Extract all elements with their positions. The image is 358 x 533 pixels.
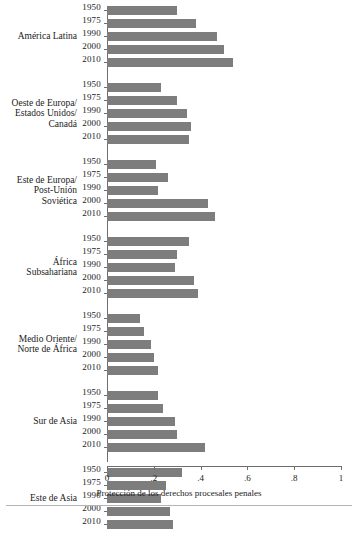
year-label: 2010 xyxy=(82,209,101,218)
value-axis-tick xyxy=(201,466,202,470)
bar-row: 1975 xyxy=(107,96,341,105)
bar-row: 1950 xyxy=(107,160,341,169)
bar-group: 19501975199020002010América Latina xyxy=(107,6,341,71)
year-label: 2010 xyxy=(82,55,101,64)
year-label: 2010 xyxy=(82,517,101,526)
bar-row: 1950 xyxy=(107,468,341,477)
bar-row: 1950 xyxy=(107,83,341,92)
bar-group: 19501975199020002010Este de Europa/ Post… xyxy=(107,160,341,225)
bar-row: 2000 xyxy=(107,430,341,439)
bar xyxy=(107,520,173,529)
bar xyxy=(107,109,187,118)
bar xyxy=(107,250,177,259)
bar xyxy=(107,58,233,67)
year-label: 1975 xyxy=(82,247,101,256)
bar xyxy=(107,366,158,375)
bar xyxy=(107,314,140,323)
year-label: 2000 xyxy=(82,273,101,282)
bar-row: 2000 xyxy=(107,122,341,131)
bar-row: 2010 xyxy=(107,212,341,221)
bar xyxy=(107,353,154,362)
year-label: 2010 xyxy=(82,132,101,141)
year-label: 1950 xyxy=(82,157,101,166)
value-axis-tick-label: 0 xyxy=(105,473,110,483)
year-label: 1990 xyxy=(82,414,101,423)
bar-row: 1990 xyxy=(107,186,341,195)
year-label: 2000 xyxy=(82,427,101,436)
year-label: 1975 xyxy=(82,170,101,179)
bar-row: 2000 xyxy=(107,45,341,54)
bar xyxy=(107,443,205,452)
bar xyxy=(107,173,168,182)
bar-group: 19501975199020002010África Subsahariana xyxy=(107,237,341,302)
year-label: 1975 xyxy=(82,16,101,25)
bar xyxy=(107,507,170,516)
bar xyxy=(107,45,224,54)
year-label: 1975 xyxy=(82,324,101,333)
year-label: 1990 xyxy=(82,106,101,115)
year-label: 1990 xyxy=(82,183,101,192)
bar xyxy=(107,83,161,92)
bar xyxy=(107,96,177,105)
bar-row: 2010 xyxy=(107,520,341,529)
bar-row: 2000 xyxy=(107,507,341,516)
year-label: 2000 xyxy=(82,350,101,359)
bar-row: 1975 xyxy=(107,250,341,259)
bar xyxy=(107,19,196,28)
value-axis-tick xyxy=(294,466,295,470)
bar xyxy=(107,199,208,208)
year-label: 1950 xyxy=(82,234,101,243)
year-label: 1950 xyxy=(82,80,101,89)
group-label: África Subsahariana xyxy=(1,257,77,278)
year-label: 1975 xyxy=(82,93,101,102)
bar-row: 1950 xyxy=(107,237,341,246)
bar xyxy=(107,276,194,285)
value-axis-tick-label: .8 xyxy=(291,473,298,483)
bar xyxy=(107,391,158,400)
year-label: 1950 xyxy=(82,388,101,397)
bar xyxy=(107,327,144,336)
bar xyxy=(107,468,182,477)
bar xyxy=(107,417,175,426)
year-label: 1950 xyxy=(82,465,101,474)
year-label: 2000 xyxy=(82,196,101,205)
bar xyxy=(107,289,198,298)
group-label: Oeste de Europa/ Estados Unidos/ Canadá xyxy=(1,98,77,130)
bar xyxy=(107,6,177,15)
value-axis-tick-label: .2 xyxy=(150,473,157,483)
bar-row: 1975 xyxy=(107,404,341,413)
year-label: 1950 xyxy=(82,3,101,12)
year-label: 1950 xyxy=(82,311,101,320)
bar-row: 1950 xyxy=(107,314,341,323)
plot-area: 19501975199020002010América Latina195019… xyxy=(107,6,341,468)
bar-group: 19501975199020002010Sur de Asia xyxy=(107,391,341,456)
x-axis-title: Protección de los derechos procesales pe… xyxy=(0,488,358,499)
year-label: 1990 xyxy=(82,260,101,269)
value-axis-tick-label: .6 xyxy=(244,473,251,483)
bar xyxy=(107,135,189,144)
bar xyxy=(107,122,191,131)
year-label: 2010 xyxy=(82,286,101,295)
bar-row: 2000 xyxy=(107,353,341,362)
bar-row: 1950 xyxy=(107,6,341,15)
bar-row: 2010 xyxy=(107,289,341,298)
year-label: 2010 xyxy=(82,440,101,449)
bar-row: 1975 xyxy=(107,327,341,336)
group-label: Medio Oriente/ Norte de África xyxy=(1,334,77,355)
bar xyxy=(107,263,175,272)
bar xyxy=(107,430,177,439)
bar-row: 1990 xyxy=(107,340,341,349)
bar-row: 2000 xyxy=(107,199,341,208)
bar xyxy=(107,186,158,195)
bar-group: 19501975199020002010Oeste de Europa/ Est… xyxy=(107,83,341,148)
bar-group: 19501975199020002010Este de Asia xyxy=(107,468,341,533)
bar-row: 2010 xyxy=(107,366,341,375)
bar-row: 2000 xyxy=(107,276,341,285)
value-axis-tick xyxy=(247,466,248,470)
bar xyxy=(107,212,215,221)
group-label: Este de Europa/ Post-Unión Soviética xyxy=(1,175,77,207)
bar xyxy=(107,340,151,349)
bar xyxy=(107,237,189,246)
bar-group: 19501975199020002010Medio Oriente/ Norte… xyxy=(107,314,341,379)
